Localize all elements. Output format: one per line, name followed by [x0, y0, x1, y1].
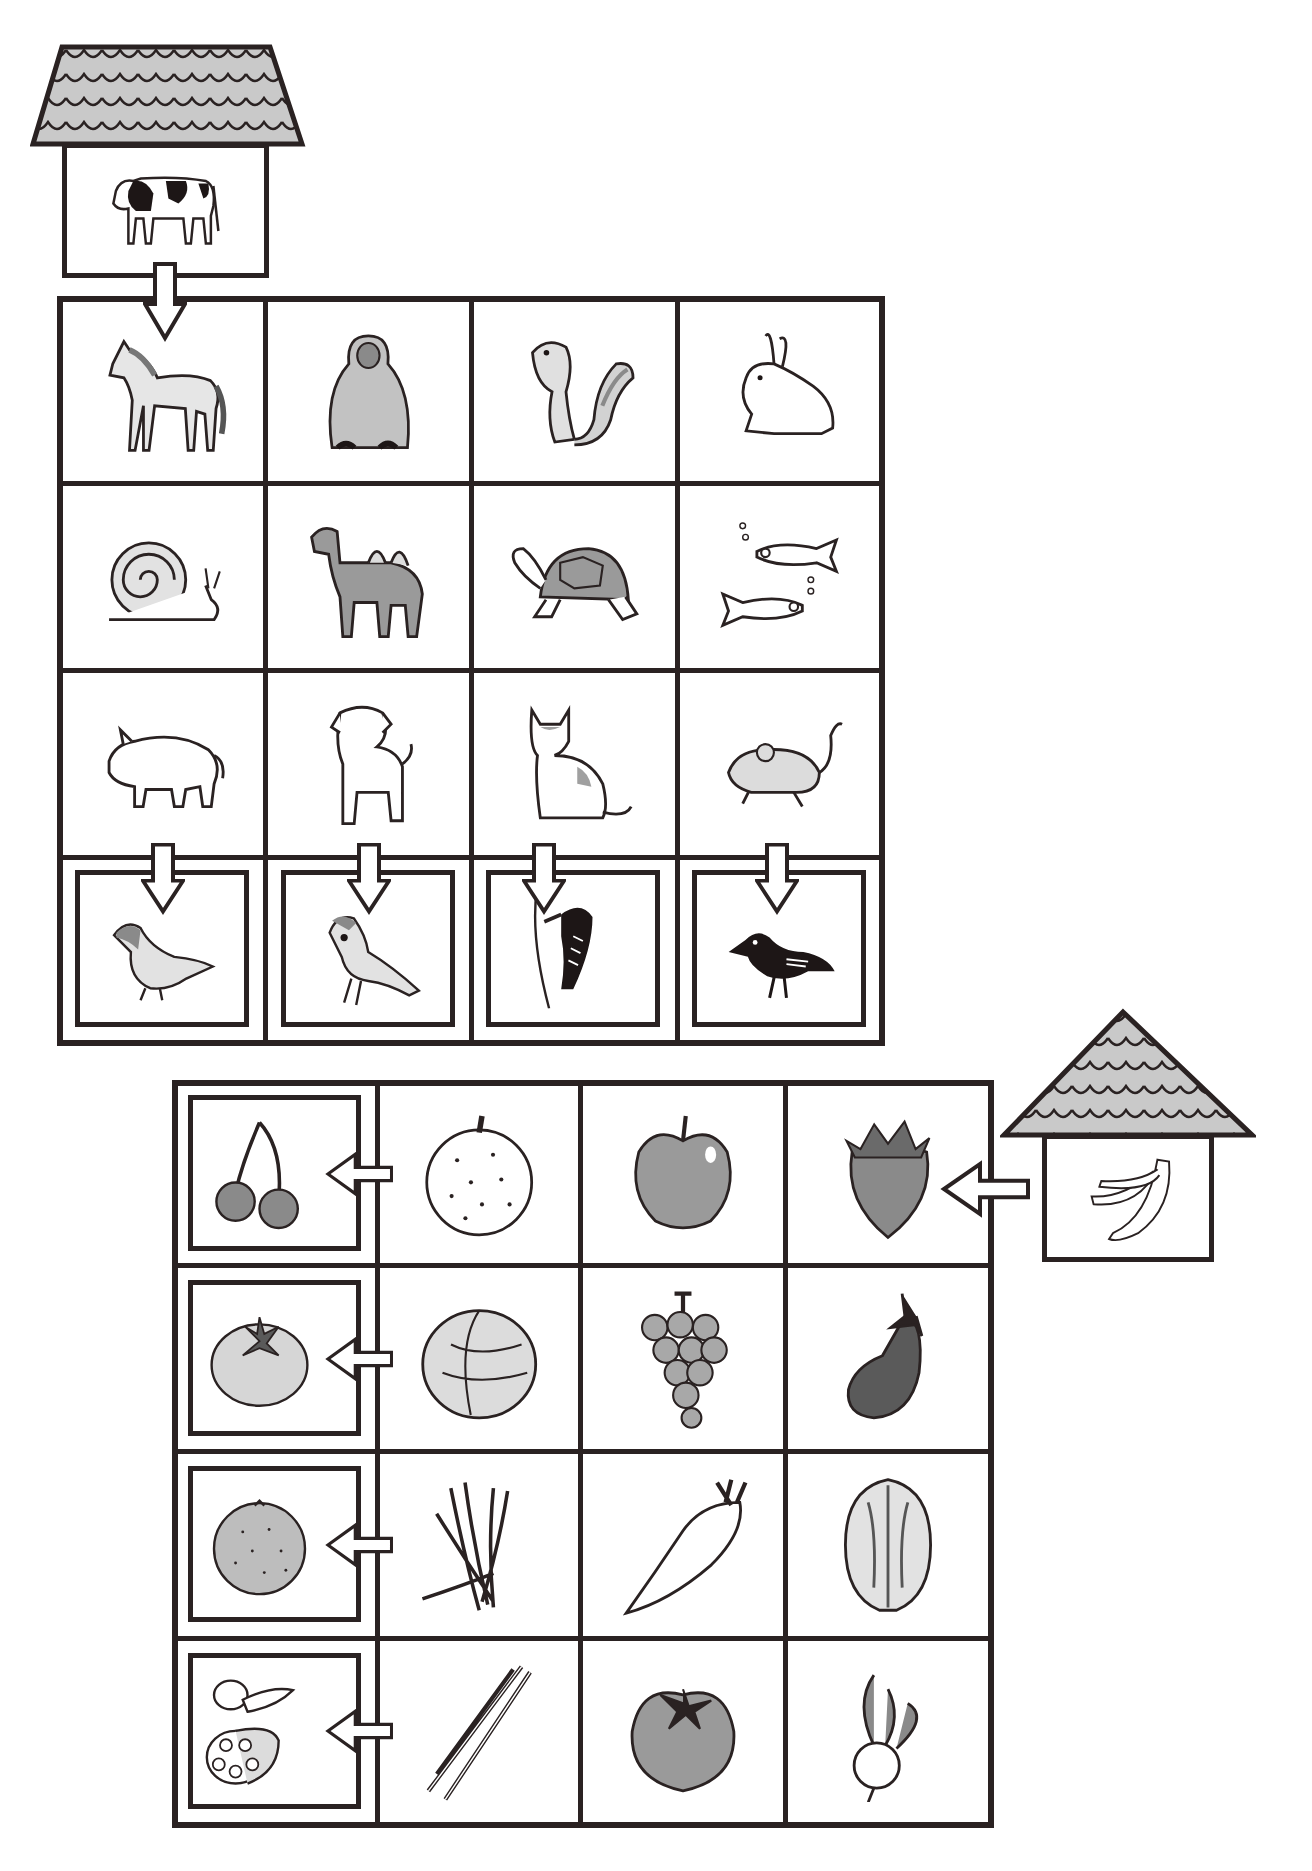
mouse-icon [702, 693, 857, 835]
turnip-icon [810, 1661, 966, 1802]
produce-cell-green-onion [380, 1641, 578, 1822]
arrow-down-icon [755, 843, 799, 915]
produce-cell-daikon [583, 1454, 783, 1636]
arrow-left-icon [325, 1151, 393, 1197]
arrow-down-icon [522, 843, 566, 915]
cow-icon [93, 156, 239, 256]
chipmunk-icon [496, 322, 653, 462]
mandarin-orange-icon [193, 1484, 326, 1604]
persimmon-icon [193, 1298, 326, 1418]
produce-cell-grapes [583, 1268, 783, 1449]
daikon-radish-icon [605, 1474, 761, 1616]
pig-icon [85, 693, 241, 835]
produce-cell-japanese-pear [380, 1086, 578, 1263]
animal-house-body [62, 143, 269, 278]
snail-icon [85, 506, 241, 648]
arrow-left-icon [325, 1522, 393, 1568]
grapes-icon [605, 1288, 761, 1429]
arrow-down-icon [143, 262, 187, 342]
shallot-and-lotus-root-icon [193, 1671, 326, 1791]
monkey-icon [290, 322, 447, 462]
tortoise-icon [496, 506, 653, 648]
cat-icon [496, 693, 653, 835]
produce-cell-lettuce [380, 1268, 578, 1449]
produce-cell-chinese-cabbage [788, 1454, 988, 1636]
crow-icon [712, 899, 846, 1020]
bird-frame-woodpecker [486, 870, 660, 1027]
animal-cell-monkey [268, 302, 469, 481]
produce-cell-tomato [583, 1641, 783, 1822]
animal-cell-mouse [680, 673, 879, 855]
produce-house-body [1042, 1134, 1214, 1262]
bananas-icon [1062, 1150, 1195, 1247]
camel-icon [290, 506, 447, 648]
animal-cell-cat [474, 673, 675, 855]
cherries-icon [193, 1113, 326, 1233]
arrow-left-icon [940, 1160, 1030, 1218]
lettuce-icon [402, 1288, 556, 1429]
apple-icon [605, 1105, 761, 1243]
animal-cell-rabbit [680, 302, 879, 481]
produce-cell-eggplant [788, 1268, 988, 1449]
animal-cell-tortoise [474, 486, 675, 668]
animal-cell-puppy [268, 673, 469, 855]
animal-cell-pig [63, 673, 263, 855]
animal-cell-medaka-fish [680, 486, 879, 668]
horse-icon [85, 322, 241, 462]
produce-cell-turnip [788, 1641, 988, 1822]
fish-icon [702, 506, 857, 648]
animal-cell-chipmunk [474, 302, 675, 481]
produce-cell-apple [583, 1086, 783, 1263]
sparrow-icon [301, 899, 435, 1020]
eggplant-icon [810, 1288, 966, 1429]
chinese-cabbage-icon [810, 1474, 966, 1616]
rabbit-icon [702, 322, 857, 462]
bean-sprouts-icon [402, 1474, 556, 1616]
green-onion-icon [402, 1661, 556, 1802]
arrow-down-icon [347, 843, 391, 915]
produce-house-roof [1000, 1008, 1256, 1140]
animal-house-roof [30, 44, 306, 148]
pigeon-icon [95, 899, 229, 1020]
animal-cell-snail [63, 486, 263, 668]
tomato-icon [605, 1661, 761, 1802]
arrow-left-icon [325, 1336, 393, 1382]
dog-icon [290, 693, 447, 835]
animal-cell-camel [268, 486, 469, 668]
japanese-pear-icon [402, 1105, 556, 1243]
arrow-left-icon [325, 1708, 393, 1754]
produce-cell-bean-sprouts [380, 1454, 578, 1636]
arrow-down-icon [141, 843, 185, 915]
